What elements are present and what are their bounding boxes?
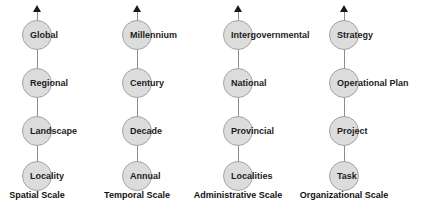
node-label: Provincial (231, 127, 274, 136)
node-label: Century (130, 79, 164, 88)
node-label: Annual (130, 172, 161, 181)
node-label: Project (337, 127, 368, 136)
arrow-up-icon (33, 5, 41, 12)
node-label: Strategy (337, 31, 373, 40)
node-circle[interactable]: Century (122, 68, 152, 98)
node-circle[interactable]: Strategy (329, 20, 359, 50)
node-circle[interactable]: Regional (22, 68, 52, 98)
node-circle[interactable]: Annual (122, 161, 152, 191)
node-circle[interactable]: Operational Plan (329, 68, 359, 98)
axis-label-spatial: Spatial Scale (9, 191, 65, 200)
node-circle[interactable]: Intergovernmental (223, 20, 253, 50)
axis-label-temporal: Temporal Scale (104, 191, 170, 200)
arrow-up-icon (340, 5, 348, 12)
node-circle[interactable]: Task (329, 161, 359, 191)
scale-hierarchies-diagram: Global Regional Landscape Locality Spati… (0, 0, 421, 212)
node-label: National (231, 79, 267, 88)
axis-label-organizational: Organizational Scale (300, 191, 389, 200)
node-label: Task (337, 172, 357, 181)
node-circle[interactable]: Localities (223, 161, 253, 191)
node-circle[interactable]: National (223, 68, 253, 98)
node-label: Decade (130, 127, 162, 136)
node-circle[interactable]: Provincial (223, 116, 253, 146)
node-label: Localities (231, 172, 273, 181)
arrow-up-icon (133, 5, 141, 12)
node-circle[interactable]: Decade (122, 116, 152, 146)
node-label: Intergovernmental (231, 31, 310, 40)
node-label: Regional (30, 79, 68, 88)
node-circle[interactable]: Locality (22, 161, 52, 191)
node-circle[interactable]: Project (329, 116, 359, 146)
node-circle[interactable]: Global (22, 20, 52, 50)
axis-label-administrative: Administrative Scale (194, 191, 283, 200)
node-label: Millennium (130, 31, 177, 40)
node-label: Landscape (30, 127, 77, 136)
arrow-up-icon (234, 5, 242, 12)
node-label: Operational Plan (337, 79, 409, 88)
node-circle[interactable]: Millennium (122, 20, 152, 50)
node-circle[interactable]: Landscape (22, 116, 52, 146)
node-label: Locality (30, 172, 64, 181)
node-label: Global (30, 31, 58, 40)
